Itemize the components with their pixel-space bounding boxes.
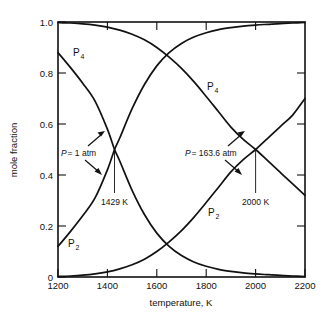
y-tick-label-5: 1.0 (40, 17, 53, 28)
annotation-pressure-1-atm: P = 1 atm (61, 131, 105, 175)
annotation-163atm-text: = 163.6 atm (192, 148, 237, 158)
curve-label-p2-left-text: P (68, 238, 75, 249)
annotation-1atm-text: = 1 atm (68, 148, 97, 158)
y-axis-ticks-right (297, 73, 305, 226)
annotation-temperature-1429: 1429 K (101, 151, 128, 207)
y-tick-label-3: 0.6 (40, 119, 53, 130)
curve-label-p4-left-text: P (73, 47, 80, 58)
curve-label-p2-right-sub: 2 (216, 213, 220, 220)
x-tick-label-3: 1800 (196, 280, 217, 291)
annotation-163atm-arrow-upper-line (228, 134, 242, 146)
x-tick-label-2: 1600 (146, 280, 167, 291)
annotation-pressure-163-atm: P = 163.6 atm (185, 131, 245, 175)
phosphorus-dissociation-chart: 0 0.2 0.4 0.6 0.8 1.0 1200 1400 1600 180… (0, 0, 330, 320)
annotation-163atm-p-symbol: P (185, 148, 191, 158)
curve-label-p4-left: P 4 (73, 47, 85, 60)
y-tick-label-2: 0.4 (40, 170, 53, 181)
curve-label-p2-left-sub: 2 (76, 244, 80, 251)
annotation-1atm-p-symbol: P (61, 148, 67, 158)
chart-page: 0 0.2 0.4 0.6 0.8 1.0 1200 1400 1600 180… (0, 0, 330, 320)
curve-label-p4-right: P 4 (207, 81, 219, 94)
x-tick-label-0: 1200 (47, 280, 68, 291)
curve-p4-1atm (58, 53, 305, 277)
annotation-1atm-arrow-upper-line (88, 134, 102, 146)
annotation-1429-label: 1429 K (101, 197, 128, 207)
curve-p2-163atm (58, 99, 305, 277)
x-tick-label-5: 2200 (294, 280, 315, 291)
x-tick-label-1: 1400 (97, 280, 118, 291)
x-axis-ticks-top (107, 22, 255, 30)
curve-label-p4-left-sub: 4 (81, 53, 85, 60)
curve-label-p2-right: P 2 (208, 207, 220, 220)
x-axis-title: temperature, K (150, 297, 213, 308)
x-tick-label-4: 2000 (245, 280, 266, 291)
curve-label-p2-left: P 2 (68, 238, 80, 251)
y-tick-label-4: 0.8 (40, 68, 53, 79)
x-axis-ticks-bottom (58, 269, 305, 277)
curve-label-p2-right-text: P (208, 207, 215, 218)
annotation-2000-label: 2000 K (242, 197, 269, 207)
y-axis-title: mole fraction (8, 123, 19, 177)
curve-p2-1atm (58, 23, 305, 247)
y-tick-label-1: 0.2 (40, 221, 53, 232)
curve-label-p4-right-sub: 4 (215, 87, 219, 94)
curve-p4-163atm (58, 23, 305, 196)
curve-label-p4-right-text: P (207, 81, 214, 92)
annotation-1atm-arrow-upper-head (98, 131, 106, 137)
